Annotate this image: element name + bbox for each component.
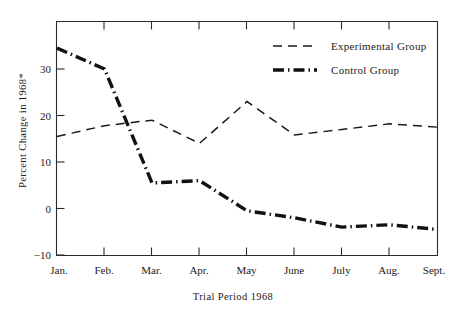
series-line-experimental-group [57, 102, 437, 144]
x-tick-label-feb: Feb. [94, 264, 114, 276]
y-axis-ticks [57, 69, 65, 255]
y-tick-label-20: 20 [40, 110, 52, 122]
y-tick-label-10: 10 [40, 156, 52, 168]
x-axis-title: Trial Period 1968 [193, 291, 274, 302]
x-tick-label-aug: Aug. [378, 264, 400, 276]
x-tick-label-apr: Apr. [189, 264, 209, 276]
x-tick-label-june: June [284, 264, 304, 276]
x-tick-label-july: July [332, 264, 351, 276]
x-tick-label-mar: Mar. [141, 264, 162, 276]
legend-label-control: Control Group [331, 64, 400, 76]
y-tick-label-30: 30 [40, 63, 52, 75]
y-tick-label-0: 0 [46, 203, 52, 215]
legend-label-experimental: Experimental Group [331, 40, 427, 52]
chart-legend: Experimental Group Control Group [273, 40, 427, 76]
x-tick-label-sept: Sept. [423, 264, 446, 276]
x-axis-ticks [104, 22, 389, 256]
y-axis-title: Percent Change in 1968* [17, 73, 28, 188]
x-axis-tick-labels: Jan. Feb. Mar. Apr. May June July Aug. S… [50, 264, 445, 276]
chart-figure: 30 20 10 0 −10 Percent Change in 1968* [0, 0, 466, 313]
plot-frame [57, 22, 438, 256]
x-tick-label-may: May [236, 264, 257, 276]
x-tick-label-jan: Jan. [50, 264, 68, 276]
y-tick-label-neg10: −10 [34, 249, 52, 261]
line-chart: 30 20 10 0 −10 Percent Change in 1968* [0, 0, 466, 313]
y-axis-tick-labels: 30 20 10 0 −10 [34, 63, 52, 261]
y-axis-title-group: Percent Change in 1968* [17, 73, 28, 188]
